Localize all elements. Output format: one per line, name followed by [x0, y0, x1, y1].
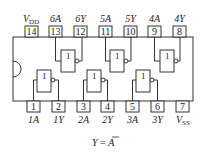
pin-10: 10 5Y — [124, 13, 137, 37]
pin-label: 4A — [149, 13, 161, 24]
pin-number: 14 — [27, 26, 37, 37]
pin-number: 7 — [180, 101, 185, 112]
pin-label: 1A — [28, 114, 40, 125]
bottom-pins: 1 1A 2 1Y 3 2A 4 2Y 5 3A 6 3Y — [27, 101, 190, 127]
pin-label: 2A — [78, 114, 90, 125]
pin-label: 5A — [100, 13, 112, 24]
pin-8: 8 4Y — [173, 13, 186, 37]
logic-formula: Y = A — [92, 137, 119, 148]
pin-1: 1 1A — [27, 101, 40, 125]
pin-14: 14 VDD — [23, 13, 39, 37]
inverter-symbol: 1 — [42, 71, 47, 81]
inverter-symbol: 1 — [165, 51, 170, 61]
pin-label: 6Y — [75, 13, 87, 24]
pin-number: 5 — [130, 101, 135, 112]
pin-number: 12 — [76, 26, 86, 37]
pin-label: 2Y — [102, 114, 114, 125]
pin-number: 1 — [31, 101, 36, 112]
pin-label: 3A — [126, 114, 139, 125]
top-pins: 14 VDD 13 6A 12 6Y 11 5A 10 5Y 9 4A — [23, 13, 186, 37]
pin-label: 5Y — [125, 13, 137, 24]
pin-3: 3 2A — [77, 101, 90, 125]
pin-number: 6 — [155, 101, 160, 112]
pin-label: 3Y — [151, 114, 164, 125]
pin-label: 4Y — [174, 13, 186, 24]
pin-number: 9 — [152, 26, 157, 37]
ic-diagram: 14 VDD 13 6A 12 6Y 11 5A 10 5Y 9 4A — [0, 0, 210, 156]
pin-12: 12 6Y — [74, 13, 87, 37]
inverter-symbol: 1 — [66, 51, 71, 61]
pin-number: 4 — [105, 101, 110, 112]
pin-4: 4 2Y — [101, 101, 114, 125]
pin-label-vss: VSS — [176, 114, 190, 127]
pin-5: 5 3A — [126, 101, 139, 125]
pin-number: 8 — [177, 26, 182, 37]
pin-number: 3 — [81, 101, 86, 112]
pin-6: 6 3Y — [151, 101, 164, 125]
pin-label-vdd: VDD — [23, 13, 39, 26]
svg-text:Y = A: Y = A — [92, 137, 115, 148]
pin-9: 9 4A — [148, 13, 161, 37]
pin-number: 2 — [56, 101, 61, 112]
pin-number: 13 — [51, 26, 61, 37]
pin-11: 11 5A — [99, 13, 112, 37]
inverter-symbol: 1 — [141, 71, 146, 81]
pin-13: 13 6A — [49, 13, 62, 37]
ic-notch — [13, 61, 21, 77]
pin-number: 10 — [126, 26, 136, 37]
pin-7: 7 VSS — [176, 101, 190, 127]
pin-label: 1Y — [53, 114, 65, 125]
inverter-symbol: 1 — [92, 71, 97, 81]
inverter-symbol: 1 — [115, 51, 120, 61]
pin-number: 11 — [101, 26, 111, 37]
pin-label: 6A — [50, 13, 62, 24]
pin-2: 2 1Y — [52, 101, 65, 125]
